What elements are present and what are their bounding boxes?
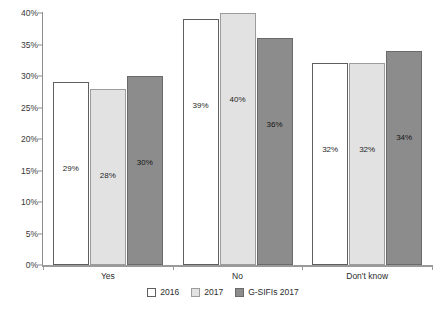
- bar-value-label: 30%: [137, 159, 153, 167]
- legend-item-label: 2016: [160, 288, 179, 297]
- x-axis-line: [42, 265, 433, 267]
- legend-item[interactable]: G-SIFIs 2017: [235, 288, 299, 297]
- y-axis-tick-label: 15%: [21, 166, 38, 175]
- y-axis-tick-label: 20%: [21, 135, 38, 144]
- legend-item-label: G-SIFIs 2017: [248, 288, 299, 297]
- dark-gray-square-swatch: [235, 288, 244, 297]
- bar-value-label: 28%: [100, 172, 116, 180]
- bar-value-label: 32%: [359, 146, 375, 154]
- y-axis-tick-labels: 0%5%10%15%20%25%30%35%40%: [0, 0, 38, 309]
- bar: [257, 38, 293, 265]
- y-axis-tick-label: 30%: [21, 72, 38, 81]
- bar: [53, 82, 89, 265]
- x-axis-category-label: Don't know: [346, 272, 388, 281]
- y-axis-tick-label: 10%: [21, 198, 38, 207]
- bar: [183, 19, 219, 265]
- legend-item[interactable]: 2017: [191, 288, 223, 297]
- y-axis-tick-label: 25%: [21, 103, 38, 112]
- y-axis-tick-label: 35%: [21, 40, 38, 49]
- legend-item-label: 2017: [204, 288, 223, 297]
- x-axis-tick-mark: [173, 265, 174, 270]
- y-axis-tick-label: 5%: [26, 229, 38, 238]
- x-axis-tick-mark: [302, 265, 303, 270]
- white-square-swatch: [147, 288, 156, 297]
- bar-value-label: 32%: [322, 146, 338, 154]
- bar-value-label: 40%: [229, 96, 245, 104]
- bar-value-label: 29%: [63, 165, 79, 173]
- bar-value-label: 36%: [266, 121, 282, 129]
- y-axis-tick-label: 40%: [21, 9, 38, 18]
- bar: [220, 13, 256, 265]
- bar: [349, 63, 385, 265]
- x-axis-tick-mark: [43, 265, 44, 270]
- chart-legend: 20162017G-SIFIs 2017: [0, 288, 446, 297]
- bar-chart: 0%5%10%15%20%25%30%35%40% 29%28%30%39%40…: [0, 0, 446, 309]
- legend-item[interactable]: 2016: [147, 288, 179, 297]
- y-axis-line: [42, 12, 43, 266]
- light-gray-square-swatch: [191, 288, 200, 297]
- bar: [386, 51, 422, 265]
- x-axis-category-label: Yes: [101, 272, 115, 281]
- x-axis-category-label: No: [232, 272, 243, 281]
- bar: [127, 76, 163, 265]
- bar: [312, 63, 348, 265]
- x-axis-tick-mark: [432, 265, 433, 270]
- bar-value-label: 39%: [192, 102, 208, 110]
- bar-value-label: 34%: [396, 134, 412, 142]
- y-axis-tick-label: 0%: [26, 261, 38, 270]
